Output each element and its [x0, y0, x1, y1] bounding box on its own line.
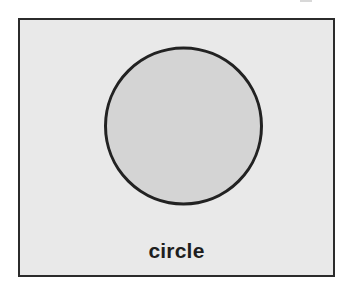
- shape-card: circle: [18, 18, 335, 277]
- shape-label: circle: [20, 239, 333, 263]
- circle-shape: [106, 48, 262, 204]
- circle-icon: [20, 20, 333, 275]
- corner-artifact: [300, 0, 312, 2]
